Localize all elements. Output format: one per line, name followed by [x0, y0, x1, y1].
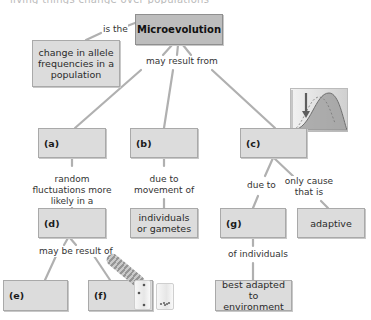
node-c: (c) [240, 128, 307, 158]
bell-curve-icon [291, 89, 347, 131]
node-e: (e) [3, 280, 68, 311]
small-jar-beads-icon [157, 284, 173, 309]
microevolution-label: Microevolution [137, 24, 221, 35]
link-only-cause: only cause that is [284, 176, 334, 198]
node-a-label: (a) [44, 138, 59, 149]
node-d-label: (d) [44, 218, 59, 229]
node-g: (g) [220, 208, 286, 238]
adaptive-label: adaptive [310, 218, 352, 229]
definition-label: change in allele frequencies in a popula… [37, 47, 115, 80]
link-of-individuals: of individuals [228, 249, 288, 260]
link-may-result-from: may result from [146, 56, 218, 67]
node-g-label: (g) [226, 218, 241, 229]
selection-graph-figure [290, 88, 348, 132]
link-due-to: due to [247, 180, 276, 191]
node-b-label: (b) [136, 138, 151, 149]
node-f-label: (f) [94, 290, 107, 301]
microevolution-node: Microevolution [135, 14, 223, 45]
bottle-neck-jar-icon [134, 280, 151, 310]
node-individuals-or-gametes: individuals or gametes [130, 208, 198, 238]
link-is-the: is the [103, 24, 128, 35]
node-e-label: (e) [9, 290, 24, 301]
individuals-or-gametes-label: individuals or gametes [136, 212, 192, 234]
node-d: (d) [38, 208, 106, 238]
node-adaptive: adaptive [297, 208, 365, 238]
definition-node: change in allele frequencies in a popula… [32, 40, 120, 87]
node-a: (a) [38, 128, 106, 158]
node-b: (b) [130, 128, 198, 158]
link-random-fluctuations: random fluctuations more likely in a [32, 174, 112, 207]
node-best-adapted: best adapted to environment [215, 280, 292, 311]
node-c-label: (c) [246, 138, 260, 149]
link-may-be-result-of: may be result of [39, 246, 113, 257]
best-adapted-label: best adapted to environment [219, 279, 289, 312]
link-due-to-movement: due to movement of [132, 174, 196, 196]
small-jar-icon [156, 283, 174, 310]
jar-beads-icon [135, 281, 150, 309]
